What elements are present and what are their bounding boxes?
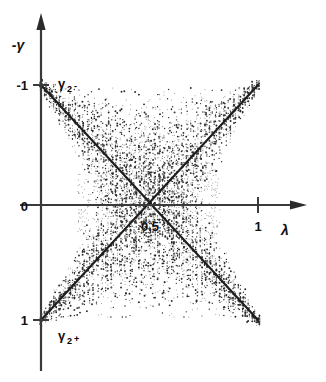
- scatter-point: [143, 168, 144, 169]
- scatter-point: [87, 291, 89, 293]
- scatter-point: [201, 266, 203, 268]
- scatter-point: [150, 257, 151, 258]
- scatter-point: [75, 102, 77, 104]
- scatter-point: [120, 168, 121, 169]
- scatter-point: [110, 166, 111, 167]
- scatter-point: [104, 178, 105, 179]
- scatter-point: [226, 252, 227, 253]
- scatter-point: [168, 133, 169, 134]
- scatter-point: [78, 288, 79, 289]
- scatter-point: [174, 146, 175, 147]
- scatter-point: [68, 107, 69, 108]
- scatter-point: [177, 253, 178, 254]
- scatter-point: [64, 302, 65, 303]
- scatter-point: [168, 250, 169, 251]
- scatter-point: [160, 221, 161, 222]
- scatter-point: [186, 311, 187, 312]
- scatter-point: [94, 108, 95, 109]
- scatter-point: [128, 235, 129, 236]
- scatter-point: [51, 319, 52, 320]
- scatter-point: [75, 286, 76, 287]
- scatter-point: [146, 150, 147, 151]
- scatter-point: [153, 235, 154, 236]
- scatter-point: [98, 176, 99, 177]
- scatter-point: [240, 99, 241, 100]
- scatter-point: [219, 222, 220, 223]
- scatter-point: [178, 163, 179, 164]
- scatter-point: [174, 262, 175, 263]
- y-tick-label-0: 0: [21, 199, 28, 214]
- scatter-point: [179, 136, 180, 137]
- scatter-point: [103, 291, 104, 292]
- scatter-point: [103, 261, 104, 262]
- scatter-point: [162, 195, 163, 196]
- scatter-point: [138, 113, 139, 114]
- scatter-point: [110, 222, 111, 223]
- scatter-point: [91, 91, 92, 92]
- scatter-point: [86, 267, 87, 268]
- scatter-point: [122, 176, 123, 177]
- scatter-point: [244, 92, 245, 93]
- scatter-point: [168, 243, 169, 244]
- scatter-point: [158, 250, 159, 251]
- scatter-point: [168, 199, 170, 201]
- scatter-point: [183, 196, 184, 197]
- scatter-point: [209, 234, 210, 235]
- scatter-point: [176, 235, 177, 236]
- scatter-point: [168, 146, 169, 147]
- scatter-point: [239, 96, 241, 98]
- scatter-point: [177, 273, 179, 275]
- scatter-point: [108, 260, 109, 261]
- scatter-point: [175, 256, 176, 257]
- scatter-point: [190, 172, 192, 174]
- scatter-point: [116, 187, 118, 189]
- scatter-point: [158, 273, 159, 274]
- scatter-point: [59, 108, 60, 109]
- scatter-point: [188, 186, 189, 187]
- scatter-point: [162, 156, 163, 157]
- scatter-point: [164, 163, 165, 164]
- scatter-point: [108, 189, 109, 190]
- scatter-point: [141, 191, 142, 192]
- scatter-point: [135, 127, 136, 128]
- scatter-point: [78, 220, 79, 221]
- scatter-point: [143, 270, 144, 271]
- scatter-point: [75, 109, 76, 110]
- scatter-point: [70, 293, 72, 295]
- scatter-point: [148, 192, 150, 194]
- scatter-point: [103, 200, 104, 201]
- scatter-point: [219, 132, 220, 133]
- scatter-point: [176, 160, 177, 161]
- scatter-point: [202, 111, 203, 112]
- scatter-point: [136, 110, 137, 111]
- scatter-point: [102, 286, 103, 287]
- scatter-point: [72, 104, 73, 105]
- scatter-point: [202, 173, 204, 175]
- scatter-point: [105, 170, 106, 171]
- scatter-point: [175, 215, 177, 217]
- scatter-point: [173, 225, 174, 226]
- scatter-point: [159, 258, 160, 259]
- scatter-point: [145, 176, 146, 177]
- scatter-point: [160, 153, 161, 154]
- scatter-point: [79, 216, 80, 217]
- scatter-point: [82, 123, 84, 125]
- scatter-point: [195, 163, 196, 164]
- scatter-point: [175, 210, 177, 212]
- scatter-point: [129, 137, 130, 138]
- scatter-point: [119, 245, 120, 246]
- scatter-point: [201, 278, 202, 279]
- scatter-point: [194, 166, 195, 167]
- scatter-point: [224, 106, 226, 108]
- scatter-point: [204, 298, 205, 299]
- scatter-point: [107, 225, 108, 226]
- scatter-point: [217, 226, 218, 227]
- scatter-point: [60, 120, 61, 121]
- scatter-point: [183, 175, 184, 176]
- scatter-point: [120, 261, 122, 263]
- scatter-point: [113, 275, 114, 276]
- scatter-point: [112, 193, 113, 194]
- scatter-point: [130, 275, 131, 276]
- scatter-point: [148, 158, 149, 159]
- scatter-point: [59, 110, 60, 111]
